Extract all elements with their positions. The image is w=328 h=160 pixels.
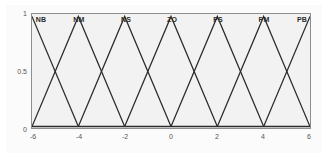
x-tick-label-0: 0 <box>169 133 173 140</box>
mf-label-ns: NS <box>121 16 131 23</box>
membership-curves <box>32 14 310 128</box>
x-tick-label--6: -6 <box>30 133 36 140</box>
membership-function-figure: 1 0.5 0 -6 -4 -2 0 2 4 6 NB NM NS ZO PS … <box>0 0 328 160</box>
mf-curve-ns <box>78 16 171 126</box>
mf-label-nb: NB <box>36 16 47 23</box>
mf-curve-nm <box>32 16 125 126</box>
plot-area: NB NM NS ZO PS PM PB <box>31 13 311 129</box>
x-tick-label-2: 2 <box>215 133 219 140</box>
x-tick-label--2: -2 <box>122 133 128 140</box>
mf-label-zo: ZO <box>167 16 177 23</box>
mf-label-ps: PS <box>213 16 223 23</box>
mf-curve-pm <box>217 16 310 126</box>
x-tick-label--4: -4 <box>76 133 82 140</box>
x-tick-label-4: 4 <box>261 133 265 140</box>
x-tick-label-6: 6 <box>307 133 311 140</box>
mf-curve-zo <box>125 16 218 126</box>
mf-label-nm: NM <box>73 16 84 23</box>
mf-label-pb: PB <box>297 16 307 23</box>
mf-label-pm: PM <box>259 16 270 23</box>
mf-curve-ps <box>171 16 264 126</box>
curve-group <box>32 16 310 126</box>
